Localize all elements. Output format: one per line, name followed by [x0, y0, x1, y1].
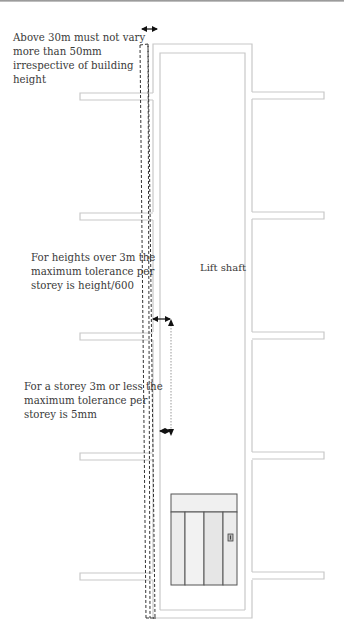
shaft-outer-wall — [153, 44, 252, 93]
floor-slab-right — [252, 332, 324, 339]
lift-door-panel-4 — [223, 512, 237, 585]
lift-door-panel-2 — [185, 512, 204, 585]
floor-slab-left — [80, 333, 153, 340]
annotation-above-30m: Above 30m must not vary more than 50mm i… — [13, 31, 145, 87]
storey-height-arrow-bottom — [168, 429, 174, 436]
tolerance-dashed-lines — [140, 44, 157, 618]
floor-slab-right — [252, 572, 324, 579]
lift-car — [171, 494, 237, 585]
annotation-under-3m: For a storey 3m or less the maximum tole… — [24, 380, 163, 422]
floor-slab-right — [252, 92, 324, 99]
floor-slab-left — [80, 453, 153, 460]
lift-shaft-diagram — [0, 0, 344, 633]
lift-door-panel-1 — [171, 512, 185, 585]
floor-slab-right — [252, 212, 324, 219]
dashed-line-left — [140, 45, 146, 618]
shaft-label: Lift shaft — [200, 262, 246, 273]
floor-slab-right — [252, 452, 324, 459]
shaft-outer-bottom — [153, 588, 252, 618]
lift-door-panel-3 — [204, 512, 223, 585]
floor-slab-left — [80, 93, 153, 100]
floor-slab-left — [80, 573, 153, 580]
annotation-over-3m: For heights over 3m the maximum toleranc… — [31, 251, 155, 293]
lift-car-header — [171, 494, 237, 512]
storey-height-arrow-top — [168, 319, 174, 326]
